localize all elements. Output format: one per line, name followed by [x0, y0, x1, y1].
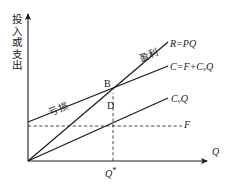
- revenue-line-label-text: R=PQ: [170, 38, 196, 49]
- total-cost-line-label-tail: Q: [206, 61, 213, 72]
- breakeven-quantity-label-star: *: [112, 165, 116, 175]
- point-d-label: D: [107, 101, 114, 111]
- variable-cost-line-label: CvQ: [171, 94, 188, 105]
- variable-cost-line-label-main: C: [171, 93, 178, 104]
- fixed-cost-label: F: [184, 120, 190, 130]
- y-axis-label-char-5: 出: [9, 60, 24, 72]
- revenue-line-label: R=PQ: [170, 39, 196, 49]
- y-axis-label-char-3: 或: [9, 37, 24, 49]
- breakeven-point-label-text: B: [104, 78, 111, 89]
- y-axis-label-char-1: 投: [9, 14, 24, 26]
- x-axis-label: Q: [212, 147, 219, 157]
- total-cost-line-label: C=F+CvQ: [170, 62, 213, 73]
- breakeven-chart: [0, 0, 238, 187]
- fixed-cost-label-text: F: [184, 119, 190, 130]
- breakeven-point-label: B: [104, 79, 111, 89]
- y-axis-label: 投 入 或 支 出: [9, 14, 24, 72]
- breakeven-quantity-label: Q*: [105, 166, 116, 179]
- x-axis-label-text: Q: [212, 146, 219, 157]
- point-d-label-text: D: [107, 100, 114, 111]
- total-cost-line-label-main: C=F+C: [170, 61, 203, 72]
- variable-cost-line-label-tail: Q: [181, 93, 188, 104]
